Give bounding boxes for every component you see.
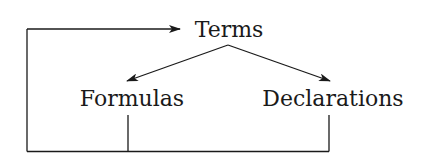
node-terms: Terms bbox=[195, 17, 264, 42]
diagram-canvas: Terms Formulas Declarations bbox=[0, 0, 425, 158]
node-declarations: Declarations bbox=[262, 86, 403, 111]
node-formulas: Formulas bbox=[80, 86, 184, 111]
arrow-terms-to-declarations bbox=[228, 45, 330, 81]
arrow-terms-to-formulas bbox=[127, 45, 228, 81]
